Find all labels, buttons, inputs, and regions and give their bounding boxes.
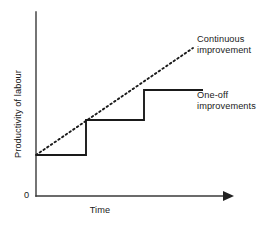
annotation-one-off-improvements: One-off improvements	[197, 90, 269, 113]
one-off-improvements-step-line	[36, 90, 203, 155]
origin-tick-label: 0	[24, 190, 29, 201]
x-axis-label: Time	[0, 205, 200, 216]
x-axis-arrow-icon	[223, 191, 234, 201]
y-axis-label: Productivity of labour	[13, 38, 24, 158]
productivity-chart: Productivity of labour Time 0 Continuous…	[0, 0, 269, 230]
continuous-improvement-line	[36, 48, 193, 155]
annotation-continuous-improvement: Continuous improvement	[197, 34, 269, 57]
